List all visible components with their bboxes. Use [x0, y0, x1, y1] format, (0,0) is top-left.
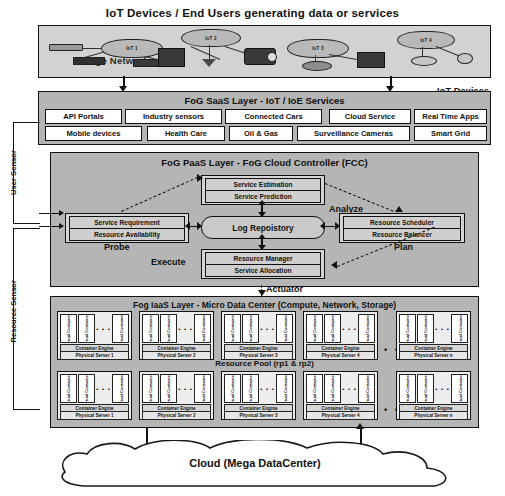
iot-cloud-4: IoT 4: [397, 31, 455, 49]
virtual-container: Virtual Container1: [60, 374, 77, 403]
edge-network-panel: Edge Network IoT Devices IoT 1 IoT 2 IoT…: [38, 25, 491, 78]
probe-row-resource-availability[interactable]: Resource Availability: [69, 228, 185, 241]
physical-server-label: Physical Server 4: [306, 411, 375, 420]
virtual-container-ellipsis: • • •: [96, 314, 111, 343]
virtual-container: Virtual Containern: [112, 374, 129, 403]
saas-service-surveillance-cameras[interactable]: Surveillance Cameras: [297, 126, 410, 141]
saas-service-real-time-apps[interactable]: Real Time Apps: [414, 109, 487, 124]
physical-server-row1-2: Virtual Container1 Virtual Container2 • …: [139, 311, 214, 360]
saas-layer-panel: FoG SaaS Layer - IoT / IoE Services API …: [38, 91, 491, 145]
virtual-container-ellipsis: • • •: [435, 374, 450, 403]
physical-server-label: Physical Server 2: [142, 411, 211, 420]
saas-service-connected-cars[interactable]: Connected Cars: [225, 109, 322, 124]
virtual-container: Virtual Containern: [276, 374, 293, 403]
virtual-container-ellipsis: • • •: [260, 314, 275, 343]
iot-cloud-3-label: IoT 3: [312, 46, 324, 51]
virtual-container: Virtual Container1: [399, 314, 416, 343]
virtual-container: Virtual Container2: [242, 314, 259, 343]
virtual-container: Virtual Containern: [112, 314, 129, 343]
mega-datacenter-cloud: Cloud (Mega DataCenter): [55, 440, 455, 490]
virtual-container: Virtual Container2: [78, 314, 95, 343]
saas-service-cloud-service[interactable]: Cloud Service: [329, 109, 411, 124]
virtual-container-ellipsis: • • •: [178, 374, 193, 403]
log-repository-label: Log Repoistory: [232, 223, 293, 233]
probe-label: Probe: [104, 242, 130, 252]
virtual-container: Virtual Container2: [324, 374, 341, 403]
iot-cloud-1: IoT 1: [101, 39, 163, 58]
virtual-container: Virtual Container1: [306, 374, 323, 403]
physical-server-row2-1: Virtual Container1 Virtual Container2 • …: [57, 371, 132, 420]
virtual-container: Virtual Containern: [194, 314, 211, 343]
virtual-container-ellipsis: • • •: [342, 374, 357, 403]
virtual-container: Virtual Container2: [417, 374, 434, 403]
physical-server-label: Physical Server 3: [224, 411, 293, 420]
probe-box: Service Requirement Resource Availabilit…: [65, 213, 189, 243]
virtual-container: Virtual Container1: [60, 314, 77, 343]
physical-server-row1-3: Virtual Container1 Virtual Container2 • …: [221, 311, 296, 360]
virtual-container: Virtual Containern: [276, 314, 293, 343]
virtual-container: Virtual Container2: [417, 314, 434, 343]
iot-cloud-2-label: IoT 2: [205, 36, 217, 41]
virtual-container-ellipsis: • • •: [435, 314, 450, 343]
paas-layer-title: FoG PaaS Layer - FoG Cloud Controller (F…: [51, 157, 478, 168]
iaas-layer-title: Fog IaaS Layer - Micro Data Center (Comp…: [51, 300, 478, 310]
execute-row-service-allocation[interactable]: Service Allocation: [205, 264, 321, 277]
physical-server-label: Physical Server n: [399, 411, 468, 420]
virtual-container: Virtual Containern: [358, 314, 375, 343]
physical-server-row2-2: Virtual Container1 Virtual Container2 • …: [139, 371, 214, 420]
resource-pool-label: Resource Pool (rp1 & rp2): [51, 359, 478, 368]
physical-server-row2-3: Virtual Container1 Virtual Container2 • …: [221, 371, 296, 420]
virtual-container: Virtual Container2: [160, 314, 177, 343]
virtual-container-ellipsis: • • •: [96, 374, 111, 403]
virtual-container: Virtual Container2: [160, 374, 177, 403]
execute-label: Execute: [151, 257, 186, 267]
saas-service-industry-sensors[interactable]: Industry sensors: [125, 109, 222, 124]
physical-server-row1-4: Virtual Container1 Virtual Container2 • …: [303, 311, 378, 360]
physical-server-label: Physical Server 1: [60, 411, 129, 420]
saas-service-oil-and-gas[interactable]: Oil & Gas: [229, 126, 293, 141]
physical-server-row2-4: Virtual Container1 Virtual Container2 • …: [303, 371, 378, 420]
actuator-label: Actuator: [266, 284, 303, 294]
physical-server-row1-n: Virtual Container1 Virtual Container2 • …: [396, 311, 471, 360]
virtual-container: Virtual Container2: [78, 374, 95, 403]
cloud-label: Cloud (Mega DataCenter): [55, 457, 455, 469]
virtual-container: Virtual Container1: [224, 314, 241, 343]
saas-service-smart-grid[interactable]: Smart Grid: [414, 126, 487, 141]
virtual-container: Virtual Container1: [224, 374, 241, 403]
architecture-diagram: IoT Devices / End Users generating data …: [0, 0, 505, 496]
virtual-container-ellipsis: • • •: [342, 314, 357, 343]
saas-service-api-portals[interactable]: API Portals: [45, 109, 122, 124]
virtual-container: Virtual Container2: [324, 314, 341, 343]
physical-server-row1-1: Virtual Container1 Virtual Container2 • …: [57, 311, 132, 360]
virtual-container-ellipsis: • • •: [178, 314, 193, 343]
iot-cloud-2: IoT 2: [181, 29, 241, 47]
saas-service-health-care[interactable]: Health Care: [147, 126, 225, 141]
virtual-container: Virtual Container1: [142, 314, 159, 343]
execute-box: Resource Manager Service Allocation: [201, 249, 325, 279]
virtual-container: Virtual Containern: [451, 314, 468, 343]
plan-label: Plan: [394, 242, 413, 252]
user-sensor-label: User Sensor: [9, 150, 18, 196]
iot-cloud-4-label: IoT 4: [420, 38, 432, 43]
saas-layer-title: FoG SaaS Layer - IoT / IoE Services: [39, 95, 490, 106]
saas-service-mobile-devices[interactable]: Mobile devices: [45, 126, 142, 141]
virtual-container: Virtual Container2: [242, 374, 259, 403]
iot-cloud-1-label: IoT 1: [126, 46, 138, 51]
virtual-container: Virtual Container1: [306, 314, 323, 343]
resource-sensor-label: Resource Sensor: [9, 295, 18, 343]
paas-layer-panel: FoG PaaS Layer - FoG Cloud Controller (F…: [50, 152, 479, 287]
virtual-container-ellipsis: • • •: [260, 374, 275, 403]
virtual-container: Virtual Container1: [142, 374, 159, 403]
virtual-container: Virtual Containern: [194, 374, 211, 403]
virtual-container: Virtual Containern: [358, 374, 375, 403]
dashed-probe-to-analyze: [121, 177, 198, 212]
iaas-layer-panel: Fog IaaS Layer - Micro Data Center (Comp…: [50, 296, 479, 428]
virtual-container: Virtual Containern: [451, 374, 468, 403]
physical-server-row2-n: Virtual Container1 Virtual Container2 • …: [396, 371, 471, 420]
virtual-container: Virtual Container1: [399, 374, 416, 403]
diagram-title: IoT Devices / End Users generating data …: [0, 7, 505, 19]
